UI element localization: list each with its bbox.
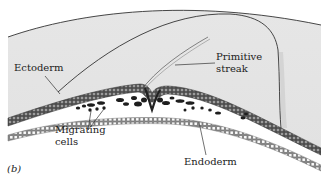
primitive-streak-label-line2: streak — [216, 64, 248, 74]
gastrulation-illustration — [0, 0, 321, 182]
panel-label: (b) — [7, 164, 21, 174]
primitive-streak-label-line1: Primitive — [216, 52, 262, 62]
migrating-cells-label-line2: cells — [55, 137, 78, 147]
migrating-cells-label-line1: Migrating — [55, 125, 106, 135]
endoderm-label: Endoderm — [184, 157, 237, 167]
ectoderm-label: Ectoderm — [14, 63, 64, 73]
diagram-canvas: Ectoderm Primitive streak Migrating cell… — [0, 0, 321, 182]
